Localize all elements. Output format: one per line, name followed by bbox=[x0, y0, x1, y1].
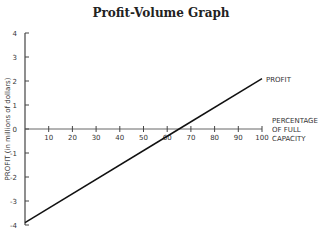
profit-line bbox=[25, 79, 262, 223]
x-tick-label: 70 bbox=[186, 134, 195, 142]
x-tick-label: 10 bbox=[44, 134, 53, 142]
y-tick-label: 3 bbox=[13, 54, 17, 62]
y-tick-label: 2 bbox=[13, 78, 17, 86]
x-tick-label: 100 bbox=[255, 134, 268, 142]
x-tick-label: 20 bbox=[68, 134, 77, 142]
y-tick-label: -3 bbox=[10, 198, 17, 206]
y-tick-label: 0 bbox=[13, 126, 17, 134]
x-tick-label: 30 bbox=[92, 134, 101, 142]
y-tick-label: -4 bbox=[10, 222, 18, 230]
x-tick-label: 90 bbox=[234, 134, 243, 142]
x-axis-label: CAPACITY bbox=[272, 135, 306, 143]
y-tick-label: 1 bbox=[13, 102, 17, 110]
y-tick-label: 4 bbox=[13, 30, 18, 38]
x-tick-label: 80 bbox=[210, 134, 219, 142]
x-axis-label: PERCENTAGE bbox=[272, 117, 318, 125]
x-axis-label: OF FULL bbox=[272, 126, 301, 134]
x-tick-label: 50 bbox=[139, 134, 148, 142]
y-axis-label: PROFIT (in millions of dollars) bbox=[4, 77, 12, 180]
chart-plot: 43210-1-2-3-4102030405060708090100PROFIT… bbox=[0, 0, 322, 234]
series-label: PROFIT bbox=[266, 76, 292, 84]
x-tick-label: 40 bbox=[115, 134, 124, 142]
